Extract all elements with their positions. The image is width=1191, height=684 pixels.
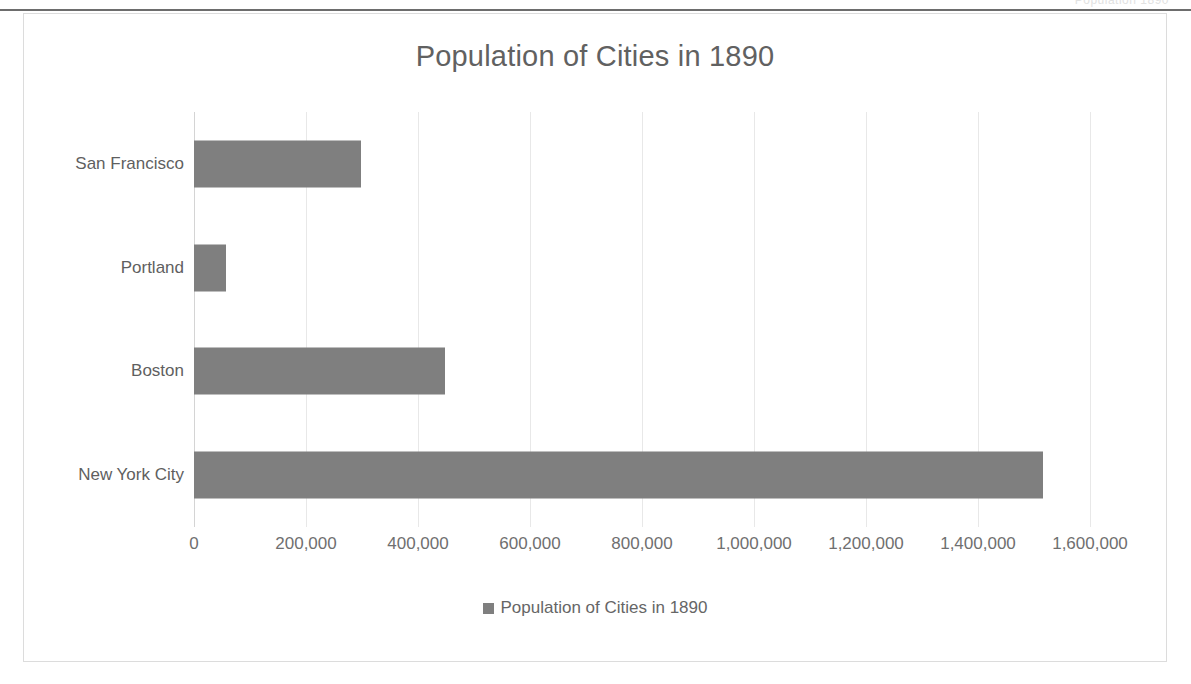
bar-row	[194, 112, 1090, 216]
value-tick-label: 0	[189, 534, 198, 554]
page-header-ghost-text: Population 1890	[1075, 0, 1169, 7]
value-tick-label: 1,000,000	[716, 534, 792, 554]
value-tick-label: 800,000	[611, 534, 672, 554]
gridline	[1090, 112, 1091, 527]
bar-boston[interactable]	[194, 348, 445, 395]
value-tick-label: 600,000	[499, 534, 560, 554]
chart-container[interactable]: Population of Cities in 1890 New York Ci…	[23, 13, 1167, 662]
category-label-boston: Boston	[131, 361, 194, 381]
bar-portland[interactable]	[194, 244, 226, 291]
category-label-san-francisco: San Francisco	[75, 154, 194, 174]
category-label-new-york-city: New York City	[78, 465, 194, 485]
bar-san-francisco[interactable]	[194, 140, 361, 187]
value-axis: 0200,000400,000600,000800,0001,000,0001,…	[194, 534, 1090, 564]
legend-label: Population of Cities in 1890	[501, 598, 708, 618]
bar-row	[194, 216, 1090, 320]
bar-new-york-city[interactable]	[194, 452, 1043, 499]
page-horizontal-rule	[0, 9, 1191, 11]
value-tick-label: 1,600,000	[1052, 534, 1128, 554]
value-tick-label: 1,400,000	[940, 534, 1016, 554]
bar-row	[194, 423, 1090, 527]
category-axis: New York CityBostonPortlandSan Francisco	[24, 112, 194, 527]
value-tick-label: 200,000	[275, 534, 336, 554]
value-tick-label: 400,000	[387, 534, 448, 554]
category-label-portland: Portland	[121, 258, 194, 278]
legend-color-swatch-icon	[483, 603, 494, 614]
chart-legend[interactable]: Population of Cities in 1890	[24, 598, 1166, 618]
page-header-strip: Population 1890	[0, 0, 1191, 8]
chart-title: Population of Cities in 1890	[24, 40, 1166, 73]
plot-area	[194, 112, 1090, 527]
bar-row	[194, 320, 1090, 424]
value-tick-label: 1,200,000	[828, 534, 904, 554]
